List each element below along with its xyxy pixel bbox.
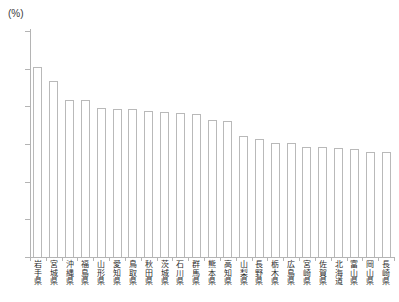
bar-slot bbox=[382, 31, 391, 257]
bar[interactable] bbox=[271, 143, 280, 257]
bar[interactable] bbox=[287, 143, 296, 257]
x-axis-category-label: 岩手県 bbox=[33, 261, 42, 287]
x-axis-tick-mark bbox=[125, 257, 126, 261]
x-axis-category-label: 北海道 bbox=[334, 261, 343, 287]
bar[interactable] bbox=[160, 112, 169, 257]
x-axis-category-label: 茨城県 bbox=[160, 261, 169, 287]
bar-chart: (%) 051015202530 岩手県宮城県沖縄県福島県山形県愛知県鳥取県秋田… bbox=[0, 0, 399, 302]
x-axis-tick-mark bbox=[236, 257, 237, 261]
x-axis-category-label: 富山県 bbox=[350, 261, 359, 287]
bar-slot bbox=[302, 31, 311, 257]
x-axis-tick-mark bbox=[378, 257, 379, 261]
x-axis-category-label: 長野県 bbox=[255, 261, 264, 287]
x-axis-category-label: 群馬県 bbox=[192, 261, 201, 287]
x-axis-category-label: 秋田県 bbox=[144, 261, 153, 287]
x-axis-tick-mark bbox=[362, 257, 363, 261]
x-axis-tick-mark bbox=[46, 257, 47, 261]
x-axis-category-label: 鳥取県 bbox=[128, 261, 137, 287]
bar-slot bbox=[33, 31, 42, 257]
bar[interactable] bbox=[318, 147, 327, 257]
x-axis-tick-mark bbox=[62, 257, 63, 261]
bar-slot bbox=[366, 31, 375, 257]
x-axis-tick-mark bbox=[283, 257, 284, 261]
bar[interactable] bbox=[350, 149, 359, 257]
bar[interactable] bbox=[192, 114, 201, 257]
bar-slot bbox=[239, 31, 248, 257]
bar-slot bbox=[287, 31, 296, 257]
bar-slot bbox=[334, 31, 343, 257]
bar-slot bbox=[65, 31, 74, 257]
x-axis-tick-mark bbox=[394, 257, 395, 261]
x-axis-tick-mark bbox=[315, 257, 316, 261]
x-axis-tick-mark bbox=[220, 257, 221, 261]
bar[interactable] bbox=[176, 113, 185, 257]
bar[interactable] bbox=[65, 100, 74, 257]
bar-slot bbox=[192, 31, 201, 257]
bar-slot bbox=[208, 31, 217, 257]
bar-slot bbox=[144, 31, 153, 257]
x-axis-category-label: 高知県 bbox=[223, 261, 232, 287]
bar[interactable] bbox=[128, 109, 137, 257]
bar[interactable] bbox=[49, 81, 58, 257]
x-axis-category-label: 沖縄県 bbox=[65, 261, 74, 287]
x-axis-category-label: 佐賀県 bbox=[318, 261, 327, 287]
bar-slot bbox=[350, 31, 359, 257]
bar-slot bbox=[128, 31, 137, 257]
bar[interactable] bbox=[144, 111, 153, 257]
x-axis-tick-mark bbox=[204, 257, 205, 261]
x-axis-tick-mark bbox=[267, 257, 268, 261]
x-axis-tick-mark bbox=[172, 257, 173, 261]
bar[interactable] bbox=[382, 152, 391, 257]
x-axis-tick-mark bbox=[188, 257, 189, 261]
bar-slot bbox=[223, 31, 232, 257]
x-axis-category-label: 福島県 bbox=[81, 261, 90, 287]
bar[interactable] bbox=[33, 67, 42, 257]
x-axis-tick-mark bbox=[252, 257, 253, 261]
bar[interactable] bbox=[208, 120, 217, 257]
x-axis-tick-mark bbox=[141, 257, 142, 261]
bar[interactable] bbox=[334, 148, 343, 257]
x-axis-tick-mark bbox=[157, 257, 158, 261]
x-axis-category-label: 岡山県 bbox=[366, 261, 375, 287]
bar-slot bbox=[176, 31, 185, 257]
x-axis-category-label: 愛知県 bbox=[113, 261, 122, 287]
y-axis-unit-label: (%) bbox=[8, 8, 24, 19]
bar[interactable] bbox=[239, 136, 248, 257]
x-axis-tick-mark bbox=[77, 257, 78, 261]
plot-area bbox=[30, 31, 394, 257]
x-axis-category-label: 山形県 bbox=[97, 261, 106, 287]
bar[interactable] bbox=[223, 121, 232, 257]
x-axis-tick-mark bbox=[109, 257, 110, 261]
x-axis-category-label: 宮崎県 bbox=[302, 261, 311, 287]
bar[interactable] bbox=[97, 108, 106, 257]
bar[interactable] bbox=[302, 147, 311, 257]
x-axis-category-label: 熊本県 bbox=[208, 261, 217, 287]
x-axis-tick-mark bbox=[30, 257, 31, 261]
x-axis-category-label: 宮城県 bbox=[49, 261, 58, 287]
bar-slot bbox=[271, 31, 280, 257]
x-axis-category-label: 山梨県 bbox=[239, 261, 248, 287]
x-axis-tick-mark bbox=[347, 257, 348, 261]
bar[interactable] bbox=[255, 139, 264, 257]
x-axis-line bbox=[30, 257, 394, 258]
x-axis-tick-mark bbox=[331, 257, 332, 261]
bar-slot bbox=[97, 31, 106, 257]
x-axis-tick-mark bbox=[93, 257, 94, 261]
bar-slot bbox=[49, 31, 58, 257]
bar-slot bbox=[318, 31, 327, 257]
bar[interactable] bbox=[81, 100, 90, 257]
x-axis-category-label: 広島県 bbox=[287, 261, 296, 287]
bar[interactable] bbox=[113, 109, 122, 257]
bar-slot bbox=[160, 31, 169, 257]
x-axis-category-label: 栃木県 bbox=[271, 261, 280, 287]
x-axis-tick-mark bbox=[299, 257, 300, 261]
bar[interactable] bbox=[366, 152, 375, 257]
bar-slot bbox=[255, 31, 264, 257]
bar-slot bbox=[81, 31, 90, 257]
x-axis-category-label: 長崎県 bbox=[382, 261, 391, 287]
x-axis-category-label: 石川県 bbox=[176, 261, 185, 287]
bar-slot bbox=[113, 31, 122, 257]
